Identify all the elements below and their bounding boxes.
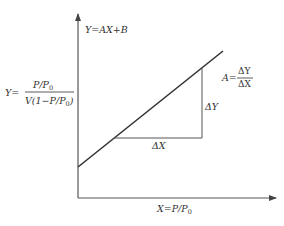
slope-numerator: ΔY <box>238 66 251 76</box>
fit-line <box>78 51 223 167</box>
slope-denominator: ΔX <box>238 79 251 89</box>
y-def-lhs: Y= <box>5 87 19 98</box>
y-definition: Y= P/P0 V(1−P/P0) <box>5 79 74 108</box>
delta-y-label: ΔY <box>204 101 220 112</box>
delta-x-label: ΔX <box>151 140 167 151</box>
slope-lhs: A= <box>221 72 237 83</box>
linear-plot-diagram: Y=AX+B Y= P/P0 V(1−P/P0) A= ΔY ΔX ΔY ΔX … <box>0 0 284 226</box>
y-def-numerator: P/P0 <box>32 79 53 92</box>
x-definition: X=P/P0 <box>156 203 192 216</box>
slope-definition: A= ΔY ΔX <box>221 66 253 89</box>
y-def-denominator: V(1−P/P0) <box>25 95 74 108</box>
y-axis-equation: Y=AX+B <box>85 24 128 35</box>
